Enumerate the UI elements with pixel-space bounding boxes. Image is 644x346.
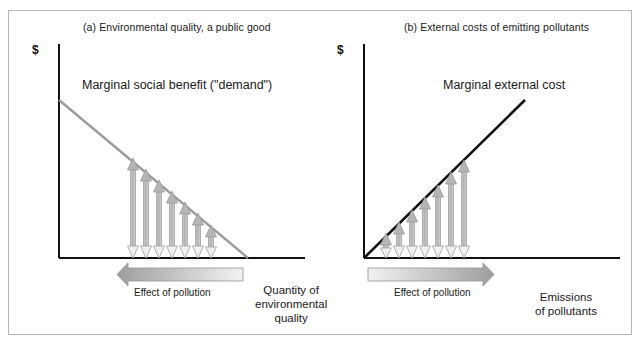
panel-b-x-axis-caption: Emissions of pollutants [535, 290, 597, 318]
caption-line: Quantity of [255, 283, 327, 297]
gap-arrow [141, 169, 152, 258]
panel-a-title: (a) Environmental quality, a public good [83, 21, 271, 33]
panel-a-gap-arrows [128, 158, 217, 258]
panel-a-axes [59, 44, 305, 258]
gap-arrow [459, 160, 470, 258]
gap-arrow [128, 158, 139, 258]
gap-arrow [420, 197, 431, 258]
marginal-social-benefit-label: Marginal social benefit ("demand") [82, 78, 272, 92]
marginal-social-benefit-curve [59, 100, 248, 258]
panel-b-axes [364, 44, 620, 258]
gap-arrow [433, 185, 444, 258]
gap-arrow [167, 191, 178, 258]
caption-line: of pollutants [535, 304, 597, 318]
panel-b-gap-arrows [381, 160, 470, 258]
panel-a-effect-of-pollution-label: Effect of pollution [134, 287, 211, 298]
gap-arrow [154, 180, 165, 258]
figure-container: (a) Environmental quality, a public good… [0, 0, 644, 346]
caption-line: Emissions [535, 290, 597, 304]
panel-b-effect-of-pollution-label: Effect of pollution [394, 287, 471, 298]
gap-arrow [180, 202, 191, 258]
marginal-external-cost-label: Marginal external cost [443, 78, 565, 92]
caption-line: environmental [255, 297, 327, 311]
gap-arrow [381, 233, 392, 258]
effect-of-pollution-arrow-a [117, 263, 243, 286]
caption-line: quality [255, 311, 327, 325]
panel-a-y-axis-label: $ [32, 43, 39, 57]
panel-b-title: (b) External costs of emitting pollutant… [404, 21, 589, 33]
marginal-external-cost-curve [364, 100, 525, 258]
gap-arrow [446, 172, 457, 258]
effect-of-pollution-arrow-b [368, 263, 494, 286]
gap-arrow [407, 210, 418, 258]
panel-a-x-axis-caption: Quantity of environmental quality [255, 283, 327, 325]
panel-b-y-axis-label: $ [337, 43, 344, 57]
